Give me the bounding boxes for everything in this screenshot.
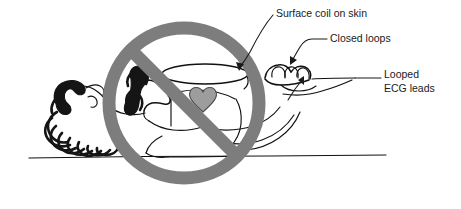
- label-closed-loops: Closed loops: [330, 32, 391, 44]
- label-looped-ecg-leads-line1: Looped: [384, 68, 419, 80]
- illustration-canvas: Surface coil on skin Closed loops Looped…: [0, 0, 461, 209]
- label-surface-coil-on-skin: Surface coil on skin: [276, 7, 367, 19]
- figure-root: Surface coil on skin Closed loops Looped…: [0, 0, 461, 209]
- label-looped-ecg-leads-line2: ECG leads: [384, 82, 435, 94]
